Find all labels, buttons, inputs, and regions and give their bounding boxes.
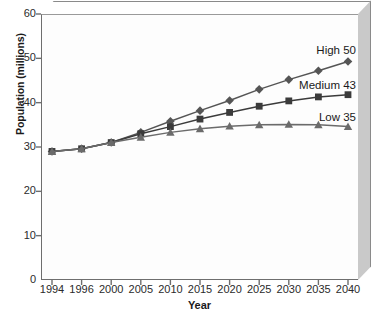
x-tick-label: 1996 [69,284,93,295]
diamond-marker [344,57,353,66]
square-marker [197,116,204,123]
x-tick-label: 2035 [306,284,330,295]
x-tick-label: 2010 [158,284,182,295]
diamond-marker [196,106,205,115]
y-tick-label: 50 [10,52,36,63]
series-line-medium [52,95,348,152]
series-label-low: Low 35 [319,112,356,124]
y-tick-label: 60 [10,8,36,19]
square-marker [226,109,233,116]
y-tick-label: 30 [10,141,36,152]
diamond-marker [314,66,323,75]
series-label-medium: Medium 43 [299,80,356,92]
x-tick-label: 2000 [99,284,123,295]
y-axis-tick-labels: 0102030405060 [0,0,36,314]
x-tick-label: 2020 [217,284,241,295]
population-projection-chart: Population (millions) 0102030405060 High… [0,0,381,314]
x-tick-label: 2030 [277,284,301,295]
x-tick-label: 2025 [247,284,271,295]
x-tick-label: 2040 [336,284,360,295]
x-axis-tick-labels: 1994199620002005201020152020202520302035… [0,284,381,300]
square-marker [345,91,352,98]
plot-series-svg [41,14,358,280]
x-tick-label: 2005 [129,284,153,295]
y-tick-label: 40 [10,97,36,108]
series-label-high: High 50 [316,45,356,57]
square-marker [256,103,263,110]
x-axis-title: Year [41,299,358,311]
diamond-marker [255,85,264,94]
frame-right-face [358,1,371,280]
y-tick-label: 20 [10,185,36,196]
square-marker [285,97,292,104]
frame-top-face [41,1,371,15]
square-marker [315,94,322,101]
diamond-marker [285,75,294,84]
plot-frame [41,14,358,280]
x-tick-label: 2015 [188,284,212,295]
x-tick-label: 1994 [40,284,64,295]
y-tick-label: 10 [10,230,36,241]
diamond-marker [225,96,234,105]
